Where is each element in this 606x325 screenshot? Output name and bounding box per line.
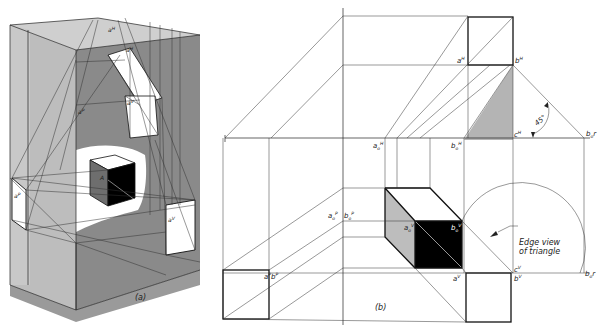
caption-b: (b) [375, 303, 386, 312]
profile-view-square [223, 270, 269, 319]
label-b-p: bP [271, 272, 278, 281]
label-bo-r-h: bor [586, 130, 597, 139]
label-b-v: bV [514, 274, 522, 283]
note-of-triangle: of triangle [519, 247, 560, 256]
label-a-h: aH [457, 56, 465, 65]
front-view-plane [166, 200, 195, 255]
front-view-square [466, 273, 511, 322]
cube-front [108, 163, 135, 206]
figure-a-glass-box [10, 18, 200, 322]
label-a-v: aV [453, 274, 461, 283]
caption-a: (a) [135, 293, 146, 302]
note-edge-view: Edge view [519, 238, 561, 247]
label-bo-r-v: bor [585, 270, 596, 279]
angle-label: 45° [533, 113, 548, 127]
label-bo-h: boH [451, 141, 462, 151]
label-A: A [99, 174, 104, 181]
label-b-h: bH [515, 56, 523, 65]
label-bo-p: boP [344, 211, 354, 221]
orthographic-projection-figure: aH aH aV aP aP aV A (a) [0, 0, 606, 325]
rotation-arc [462, 183, 585, 273]
figure-b-projection [223, 8, 590, 325]
label-c-v: cV [514, 265, 522, 274]
label-ao-h: aoH [373, 141, 384, 151]
label-ao-p: aoP [328, 211, 338, 221]
